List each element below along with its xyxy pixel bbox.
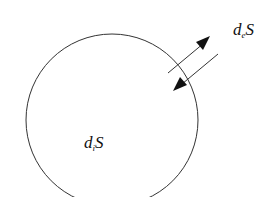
internal-entropy-label: diS	[84, 133, 104, 153]
external-entropy-label: deS	[233, 20, 255, 40]
diagram-canvas: deS diS	[0, 0, 274, 197]
inward-arrow-icon	[173, 54, 218, 91]
outward-arrow-icon	[168, 36, 210, 73]
system-boundary-circle	[26, 34, 198, 197]
